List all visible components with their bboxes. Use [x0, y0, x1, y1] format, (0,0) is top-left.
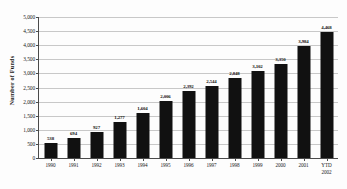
bar-value-label: 2,848	[229, 71, 239, 76]
x-tick-mark	[143, 158, 144, 161]
x-tick-mark	[189, 158, 190, 161]
y-tick-label: 1,500	[23, 113, 35, 119]
bar-group: 3,9842001	[292, 17, 315, 158]
x-tick-mark	[281, 158, 282, 161]
y-tick-label: 1,000	[23, 127, 35, 133]
y-tick-label: 2,500	[23, 85, 35, 91]
x-tick-mark	[258, 158, 259, 161]
bar-value-label: 3,102	[252, 64, 262, 69]
bar-value-label: 927	[93, 125, 100, 130]
bar[interactable]	[90, 132, 103, 158]
y-tick-label: 0	[32, 155, 35, 161]
x-tick-label: 1995	[161, 162, 171, 169]
bar-value-label: 538	[47, 136, 54, 141]
bar-group: 3,1021999	[246, 17, 269, 158]
y-tick-label: 500	[27, 141, 35, 147]
x-tick-mark	[97, 158, 98, 161]
bar-group: 2,0061995	[154, 17, 177, 158]
y-tick-label: 4,000	[23, 42, 35, 48]
bar-group: 5381990	[39, 17, 62, 158]
x-tick-label-line: 2002	[321, 169, 331, 176]
x-tick-label: 2000	[276, 162, 286, 169]
bar-group: 3,3502000	[269, 17, 292, 158]
x-tick-label: 1999	[253, 162, 263, 169]
bar[interactable]	[251, 71, 264, 158]
y-axis-title: Number of Funds	[2, 0, 22, 160]
x-tick-mark	[304, 158, 305, 161]
bar[interactable]	[274, 64, 287, 158]
bar[interactable]	[113, 122, 126, 158]
y-tick-label: 3,500	[23, 56, 35, 62]
x-tick-label: 1996	[184, 162, 194, 169]
bar[interactable]	[297, 46, 310, 158]
bar-group: 1,2771993	[108, 17, 131, 158]
bar[interactable]	[67, 138, 80, 158]
bar-group: 1,6041994	[131, 17, 154, 158]
x-tick-label: 1991	[69, 162, 79, 169]
x-tick-mark	[212, 158, 213, 161]
x-tick-mark	[166, 158, 167, 161]
x-tick-mark	[327, 158, 328, 161]
x-tick-mark	[235, 158, 236, 161]
bar[interactable]	[159, 101, 172, 158]
y-tick-label: 2,000	[23, 99, 35, 105]
bar[interactable]	[228, 78, 241, 158]
bars-layer: 5381990694199192719921,27719931,60419942…	[39, 17, 338, 158]
bar[interactable]	[44, 143, 57, 158]
bar[interactable]	[182, 91, 195, 158]
bar-value-label: 3,984	[298, 39, 308, 44]
bar-group: 2,8481998	[223, 17, 246, 158]
bar-value-label: 1,604	[137, 106, 147, 111]
bar-group: 2,5441997	[200, 17, 223, 158]
bar-value-label: 694	[70, 131, 77, 136]
y-tick-label: 4,500	[23, 28, 35, 34]
bar[interactable]	[205, 86, 218, 158]
x-tick-label: YTD2002	[321, 162, 331, 175]
x-tick-label: 1998	[230, 162, 240, 169]
y-tick-label: 3,000	[23, 70, 35, 76]
bar-value-label: 1,277	[114, 115, 124, 120]
y-tick-label: 5,000	[23, 14, 35, 20]
bar-value-label: 2,392	[183, 84, 193, 89]
x-tick-label: 1992	[92, 162, 102, 169]
x-tick-mark	[120, 158, 121, 161]
bar[interactable]	[320, 32, 333, 158]
x-tick-label: 1994	[138, 162, 148, 169]
bar-group: 9271992	[85, 17, 108, 158]
y-axis-title-text: Number of Funds	[9, 55, 16, 105]
x-tick-label: 1990	[46, 162, 56, 169]
x-tick-mark	[51, 158, 52, 161]
bar-value-label: 4,468	[321, 25, 331, 30]
x-tick-label: 1993	[115, 162, 125, 169]
x-tick-label-line: YTD	[321, 162, 331, 169]
bar-group: 6941991	[62, 17, 85, 158]
x-tick-mark	[74, 158, 75, 161]
bar-value-label: 2,006	[160, 94, 170, 99]
x-tick-label: 2001	[299, 162, 309, 169]
bar-group: 2,3921996	[177, 17, 200, 158]
bar-chart-figure: Number of Funds 05001,0001,5002,0002,500…	[0, 0, 347, 189]
y-tick-mark	[36, 158, 39, 159]
bar-value-label: 2,544	[206, 79, 216, 84]
bar-group: 4,468YTD2002	[315, 17, 338, 158]
bar[interactable]	[136, 113, 149, 158]
x-tick-label: 1997	[207, 162, 217, 169]
bar-value-label: 3,350	[275, 57, 285, 62]
plot-area: 05001,0001,5002,0002,5003,0003,5004,0004…	[38, 17, 338, 159]
